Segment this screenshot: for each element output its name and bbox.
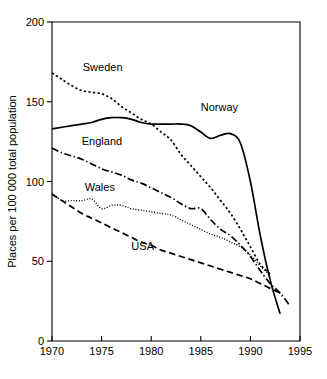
x-tick-label: 1970 bbox=[40, 345, 64, 357]
series-label-norway: Norway bbox=[201, 101, 239, 113]
y-tick-label: 200 bbox=[26, 16, 44, 28]
x-tick-label: 1985 bbox=[189, 345, 213, 357]
series-line-england bbox=[52, 148, 290, 306]
y-axis-title: Places per 100 000 total population bbox=[6, 95, 18, 267]
series-line-norway bbox=[52, 117, 280, 313]
y-tick-label: 150 bbox=[26, 96, 44, 108]
series-label-england: England bbox=[82, 135, 122, 147]
x-tick-labels: 197019751980198519901995 bbox=[40, 345, 312, 357]
x-tick-label: 1995 bbox=[288, 345, 312, 357]
x-tick-label: 1975 bbox=[89, 345, 113, 357]
y-tick-labels: 050100150200 bbox=[26, 16, 44, 347]
series-line-wales bbox=[52, 193, 270, 276]
data-series-group bbox=[52, 73, 290, 314]
chart-figure: 050100150200 197019751980198519901995 Sw… bbox=[0, 0, 327, 379]
series-label-wales: Wales bbox=[85, 181, 116, 193]
y-axis-title-text: Places per 100 000 total population bbox=[6, 95, 18, 267]
line-chart: 050100150200 197019751980198519901995 Sw… bbox=[0, 0, 327, 379]
x-tick-label: 1990 bbox=[238, 345, 262, 357]
y-tick-label: 50 bbox=[32, 255, 44, 267]
y-tick-label: 100 bbox=[26, 176, 44, 188]
series-label-sweden: Sweden bbox=[83, 61, 123, 73]
series-label-usa: USA bbox=[131, 240, 154, 252]
series-line-usa bbox=[52, 194, 280, 293]
x-tick-label: 1980 bbox=[139, 345, 163, 357]
